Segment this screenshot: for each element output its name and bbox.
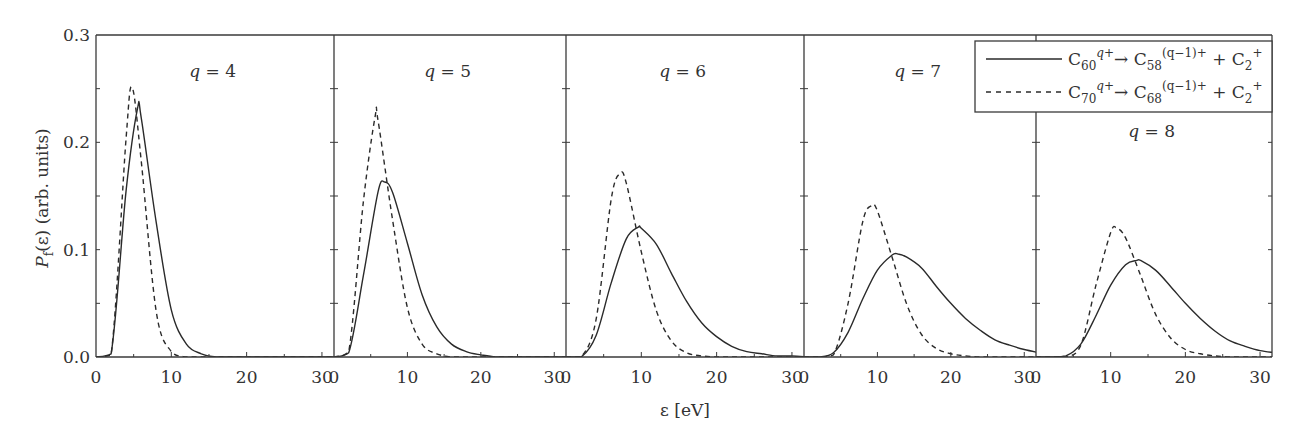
panel-label-q6: q = 6 bbox=[659, 61, 706, 81]
c70-curve-q7 bbox=[804, 204, 1039, 357]
y-tick-label: 0.3 bbox=[63, 25, 90, 45]
c60-curve-q6 bbox=[566, 226, 807, 357]
x-tick-label: 20 bbox=[1175, 367, 1197, 387]
chart-figure: q = 4q = 5q = 6q = 7q = 8 01020300102030… bbox=[0, 0, 1299, 436]
panel-q8: q = 8 bbox=[1036, 121, 1275, 357]
x-tick-label: 20 bbox=[236, 367, 258, 387]
c70-curve-q6 bbox=[566, 172, 807, 357]
c70-curve-q5 bbox=[334, 107, 569, 357]
x-tick-label: 30 bbox=[1249, 367, 1271, 387]
x-tick-label: 20 bbox=[470, 367, 492, 387]
x-tick-label: 10 bbox=[397, 367, 419, 387]
panel-q4: q = 4 bbox=[96, 61, 337, 357]
c70-curve-q8 bbox=[1036, 226, 1275, 357]
x-tick-label: 10 bbox=[867, 367, 889, 387]
y-tick-label: 0.2 bbox=[63, 132, 90, 152]
x-axis-title: ε [eV] bbox=[660, 400, 710, 420]
x-tick-label: 0 bbox=[1031, 367, 1042, 387]
x-tick-label: 0 bbox=[799, 367, 810, 387]
panel-q5: q = 5 bbox=[334, 61, 569, 357]
chart-canvas: q = 4q = 5q = 6q = 7q = 8 01020300102030… bbox=[0, 0, 1299, 436]
x-tick-label: 10 bbox=[630, 367, 652, 387]
c60-curve-q5 bbox=[334, 181, 569, 357]
c60-curve-q8 bbox=[1036, 260, 1275, 357]
panel-label-q4: q = 4 bbox=[189, 61, 236, 81]
c70-curve-q4 bbox=[96, 87, 337, 357]
x-tick-label: 0 bbox=[91, 367, 102, 387]
x-tick-label: 20 bbox=[940, 367, 962, 387]
x-tick-label: 20 bbox=[706, 367, 728, 387]
legend: C60q+→ C58(q−1)+ + C2+ C70q+→ C68(q−1)+ … bbox=[975, 41, 1272, 112]
panel-label-q5: q = 5 bbox=[424, 61, 471, 81]
c60-curve-q4 bbox=[96, 101, 337, 357]
x-tick-label: 10 bbox=[160, 367, 182, 387]
c60-curve-q7 bbox=[804, 253, 1039, 357]
y-tick-label: 0.0 bbox=[63, 347, 90, 367]
x-tick-label: 0 bbox=[329, 367, 340, 387]
x-tick-label: 0 bbox=[561, 367, 572, 387]
panel-label-q7: q = 7 bbox=[894, 61, 941, 81]
panel-label-q8: q = 8 bbox=[1128, 121, 1175, 141]
x-tick-label: 10 bbox=[1100, 367, 1122, 387]
y-tick-label: 0.1 bbox=[63, 240, 90, 260]
y-axis-title: Pf(ε) (arb. units) bbox=[32, 128, 56, 269]
panel-q6: q = 6 bbox=[566, 61, 807, 357]
